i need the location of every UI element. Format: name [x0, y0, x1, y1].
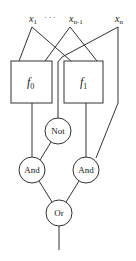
gate-and-right: And	[73, 157, 99, 183]
gate-and-left: And	[19, 157, 45, 183]
wire-and-right-or	[66, 181, 79, 202]
wire-not-and-left	[40, 142, 51, 160]
input-labels: x1 · · · xn-1 xn	[28, 13, 123, 26]
gate-not: Not	[45, 118, 71, 144]
wire-x1-f0	[19, 27, 32, 61]
gate-and-left-label: And	[24, 165, 40, 175]
input-dots: · · ·	[44, 13, 56, 22]
diagram-svg: x1 · · · xn-1 xn f0 f1 Not And And Or	[0, 0, 136, 261]
logic-diagram: x1 · · · xn-1 xn f0 f1 Not And And Or	[0, 0, 136, 261]
wire-and-left-or	[39, 181, 52, 202]
block-f1: f1	[64, 61, 103, 103]
wire-xn1-f0	[45, 27, 70, 61]
wire-xn1-f1	[70, 27, 97, 61]
input-xn: xn	[114, 13, 123, 26]
gate-not-label: Not	[51, 126, 65, 136]
block-f0: f0	[11, 61, 52, 103]
gate-and-right-label: And	[78, 165, 94, 175]
input-x1: x1	[28, 13, 37, 26]
input-xn-1: xn-1	[68, 13, 83, 26]
gate-or: Or	[46, 200, 72, 226]
gate-or-label: Or	[54, 208, 64, 218]
wire-x1-f1	[32, 27, 71, 61]
